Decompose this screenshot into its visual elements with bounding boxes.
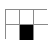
grid-cell-r1-c3 — [34, 10, 48, 25]
grid-cell-r1-c1 — [6, 10, 20, 25]
grid-cell-r2-c3 — [34, 25, 48, 40]
grid-cell-r2-c1 — [6, 25, 20, 40]
grid-cell-r2-c2-selected — [20, 25, 34, 40]
table-layout-icon[interactable] — [5, 9, 47, 39]
grid-cell-r1-c2 — [20, 10, 34, 25]
